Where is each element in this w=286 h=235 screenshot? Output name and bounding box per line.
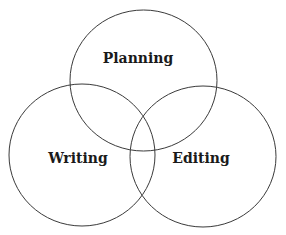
- writing-label: Writing: [47, 150, 108, 166]
- planning-label: Planning: [103, 50, 174, 66]
- planning-circle: [70, 10, 217, 151]
- venn-diagram: Planning Writing Editing: [0, 0, 286, 235]
- editing-label: Editing: [172, 150, 230, 166]
